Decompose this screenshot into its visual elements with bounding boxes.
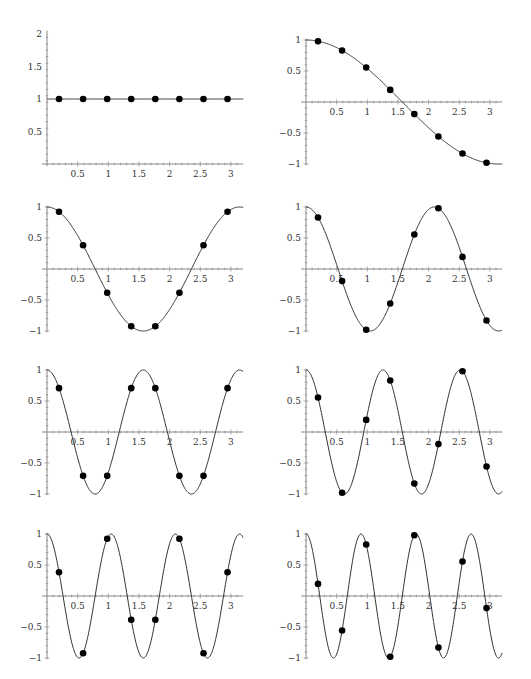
sample-point [152, 616, 159, 623]
sample-point [104, 473, 111, 480]
y-tick-label: 1 [295, 529, 301, 539]
x-tick-label: 3 [487, 274, 493, 284]
x-tick-label: 3 [228, 601, 234, 611]
x-tick-label: 2.5 [452, 107, 467, 117]
sample-point [339, 627, 346, 634]
sample-point [176, 289, 183, 296]
sample-point [56, 385, 63, 392]
sample-point [152, 385, 159, 392]
x-tick-label: 1.5 [391, 107, 406, 117]
y-tick-label: −1 [288, 326, 301, 336]
x-tick-label: 1 [364, 437, 370, 447]
y-tick-label: 0.5 [287, 396, 302, 406]
sample-point [224, 569, 231, 576]
y-tick-label: −1 [29, 489, 42, 499]
sample-point [315, 38, 322, 45]
sample-point [387, 654, 394, 661]
y-tick-label: 1 [295, 365, 301, 375]
x-tick-label: 2.5 [452, 274, 467, 284]
x-tick-label: 2.5 [193, 169, 208, 179]
x-tick-label: 1.5 [132, 169, 147, 179]
x-tick-label: 1 [105, 169, 111, 179]
x-tick-label: 1 [364, 107, 370, 117]
sample-point [104, 96, 111, 103]
sample-point [200, 650, 207, 657]
sample-point [176, 535, 183, 542]
y-tick-label: 0.5 [28, 560, 43, 570]
sample-point [363, 541, 370, 548]
x-tick-label: 2.5 [452, 601, 467, 611]
y-tick-label: 1 [36, 202, 42, 212]
x-tick-label: 2.5 [193, 601, 208, 611]
plot-cos-2: 0.511.522.5310.5−0.5−1 [20, 202, 243, 336]
y-tick-label: −0.5 [20, 458, 42, 468]
x-tick-label: 0.5 [329, 107, 344, 117]
y-tick-label: 0.5 [287, 560, 302, 570]
sample-point [176, 96, 183, 103]
sample-point [224, 208, 231, 215]
y-tick-label: −0.5 [279, 622, 301, 632]
sample-point [411, 480, 418, 487]
sample-point [56, 208, 63, 215]
x-tick-label: 2 [167, 601, 173, 611]
x-tick-label: 3 [487, 107, 493, 117]
x-tick-label: 3 [228, 274, 234, 284]
y-tick-label: 2 [36, 29, 42, 39]
plot-cos-4: 0.511.522.5310.5−0.5−1 [20, 365, 243, 499]
y-tick-label: 0.5 [28, 396, 43, 406]
y-tick-label: 1 [36, 365, 42, 375]
sample-point [152, 96, 159, 103]
sample-point [80, 242, 87, 249]
y-tick-label: 1 [36, 94, 42, 104]
x-tick-label: 1 [105, 601, 111, 611]
sample-point [459, 150, 466, 157]
y-tick-label: −0.5 [20, 295, 42, 305]
sample-point [128, 96, 135, 103]
sample-point [315, 581, 322, 588]
sample-point [200, 473, 207, 480]
sample-point [224, 385, 231, 392]
y-tick-label: −1 [288, 159, 301, 169]
y-tick-label: 1 [36, 529, 42, 539]
y-tick-label: −1 [288, 489, 301, 499]
x-tick-label: 3 [487, 437, 493, 447]
sample-point [483, 463, 490, 470]
sample-point [339, 490, 346, 497]
sample-point [315, 394, 322, 401]
y-tick-label: −0.5 [20, 622, 42, 632]
sample-point [176, 473, 183, 480]
y-tick-label: 0.5 [287, 233, 302, 243]
sample-point [128, 616, 135, 623]
y-tick-label: 0.5 [28, 127, 43, 137]
x-tick-label: 2.5 [193, 274, 208, 284]
y-tick-label: −0.5 [279, 128, 301, 138]
sample-point [80, 96, 87, 103]
sample-point [363, 64, 370, 71]
plot-cos-3: 0.511.522.5310.5−0.5−1 [279, 202, 502, 336]
y-tick-label: 0.5 [287, 66, 302, 76]
x-tick-label: 0.5 [70, 274, 85, 284]
x-tick-label: 1.5 [132, 437, 147, 447]
plot-cos-7: 0.511.522.5310.5−0.5−1 [279, 529, 502, 663]
x-tick-label: 0.5 [329, 601, 344, 611]
sample-point [339, 47, 346, 54]
x-tick-label: 1.5 [132, 601, 147, 611]
chart-grid: 0.511.522.530.511.520.511.522.5310.5−0.5… [0, 0, 531, 679]
x-tick-label: 3 [228, 437, 234, 447]
y-tick-label: 1 [295, 35, 301, 45]
sample-point [411, 111, 418, 118]
sample-point [363, 327, 370, 334]
sample-point [411, 231, 418, 238]
sample-point [128, 385, 135, 392]
y-tick-label: −1 [29, 653, 42, 663]
sample-point [411, 532, 418, 539]
y-tick-label: 1.5 [28, 62, 43, 72]
y-tick-label: −1 [288, 653, 301, 663]
x-tick-label: 2 [167, 169, 173, 179]
x-tick-label: 0.5 [329, 437, 344, 447]
x-tick-label: 1 [364, 274, 370, 284]
sample-point [200, 96, 207, 103]
x-tick-label: 1.5 [391, 601, 406, 611]
x-tick-label: 0.5 [70, 601, 85, 611]
x-tick-label: 1 [364, 601, 370, 611]
